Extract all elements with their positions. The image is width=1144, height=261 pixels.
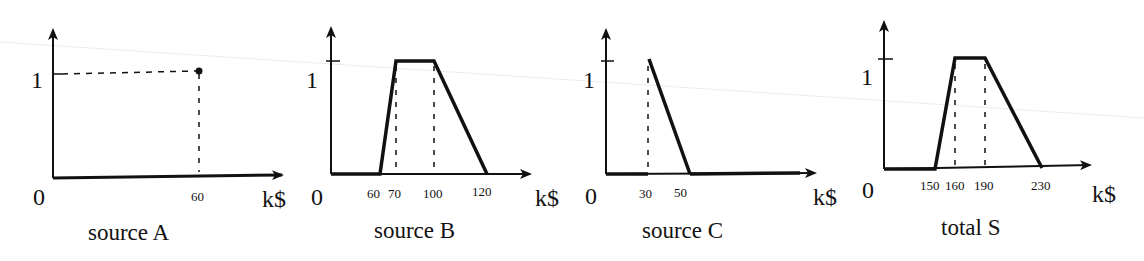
y-label-one: 1 [306, 67, 318, 93]
y-label-one: 1 [583, 67, 595, 93]
y-label-one: 1 [31, 67, 43, 93]
origin-label: 0 [862, 177, 874, 203]
origin-label: 0 [33, 184, 45, 210]
x-tick-120: 120 [472, 184, 492, 199]
unit-label: k$ [535, 185, 559, 211]
panel-source-c: 1 0 30 50 k$ source C [583, 30, 837, 243]
unit-label: k$ [1092, 181, 1116, 207]
membership-curve [884, 58, 1042, 169]
x-tick-60: 60 [367, 186, 380, 201]
x-tick-70: 70 [388, 186, 401, 201]
caption: source A [88, 220, 170, 245]
caption: total S [941, 215, 1000, 240]
x-tick-160: 160 [945, 178, 965, 193]
x-tick-100: 100 [423, 186, 443, 201]
panel-source-a: 1 0 60 k$ source A [31, 30, 286, 245]
membership-curve [331, 61, 487, 174]
fuzzy-sets-figure: 1 0 60 k$ source A 1 0 60 70 100 120 k$ … [0, 0, 1144, 261]
x-tick-230: 230 [1031, 178, 1051, 193]
membership-curve [649, 59, 690, 174]
x-tick-30: 30 [639, 186, 652, 201]
y-label-one: 1 [861, 64, 873, 90]
x-tick-50: 50 [674, 185, 687, 200]
caption: source C [642, 218, 723, 243]
panel-source-b: 1 0 60 70 100 120 k$ source B [306, 28, 559, 243]
panel-total-s: 1 0 150 160 190 230 k$ total S [861, 22, 1116, 240]
x-tick-150: 150 [920, 178, 940, 193]
unit-label: k$ [262, 186, 286, 212]
origin-label: 0 [311, 184, 323, 210]
x-tick-60: 60 [191, 189, 204, 204]
caption: source B [374, 218, 455, 243]
dashed-guide-horizontal [62, 71, 197, 74]
crisp-point [196, 68, 203, 75]
origin-label: 0 [585, 183, 597, 209]
unit-label: k$ [813, 184, 837, 210]
x-axis [53, 175, 282, 178]
x-tick-190: 190 [974, 178, 994, 193]
membership-zero-segment-right [690, 173, 800, 174]
scan-artifact-line [0, 42, 1144, 118]
